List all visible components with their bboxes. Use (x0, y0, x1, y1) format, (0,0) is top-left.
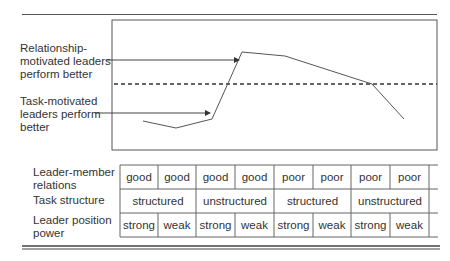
power-cell: strong (274, 213, 313, 237)
task-structure-cell: unstructured (351, 189, 429, 213)
row-header-task-structure: Task structure (33, 194, 105, 207)
lmr-cell: good (158, 165, 196, 189)
lmr-cell: poor (274, 165, 313, 189)
power-cell: weak (158, 213, 196, 237)
lmr-cell: poor (313, 165, 351, 189)
relationship-label: Relationship-motivated leadersperform be… (20, 42, 111, 81)
chart-frame (112, 20, 437, 150)
arrow-icon (205, 110, 211, 116)
power-cell: weak (313, 213, 351, 237)
task-structure-cell: structured (274, 189, 351, 213)
performance-line (143, 52, 404, 128)
lmr-cell: poor (351, 165, 390, 189)
power-cell: strong (120, 213, 158, 237)
row-header-position-power: Leader positionpower (33, 214, 112, 240)
row-header-lmr: Leader-memberrelations (33, 166, 115, 192)
task-structure-cell: unstructured (196, 189, 274, 213)
power-cell: weak (235, 213, 274, 237)
lmr-cell: poor (390, 165, 429, 189)
power-cell: strong (196, 213, 235, 237)
power-cell: strong (351, 213, 390, 237)
lmr-cell: good (196, 165, 235, 189)
task-label: Task-motivatedleaders performbetter (20, 95, 101, 134)
lmr-cell: good (235, 165, 274, 189)
power-cell: weak (390, 213, 429, 237)
lmr-cell: good (120, 165, 158, 189)
task-structure-cell: structured (120, 189, 196, 213)
